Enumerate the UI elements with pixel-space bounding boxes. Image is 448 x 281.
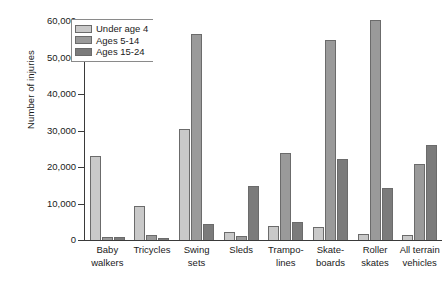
x-axis-label: Rollerskates: [353, 244, 398, 269]
x-axis-label: Tricycles: [130, 244, 175, 257]
x-axis-label: Swingsets: [174, 244, 219, 269]
bar-group: [174, 21, 219, 240]
bar: [90, 156, 101, 240]
bar-group: [397, 21, 442, 240]
bar: [102, 237, 113, 240]
bar: [191, 34, 202, 240]
x-axis-line: [84, 240, 442, 241]
x-axis-label: All terrainvehicles: [397, 244, 442, 269]
bar: [158, 238, 169, 240]
y-axis-tick: [78, 94, 85, 95]
x-axis-label: Skate-boards: [308, 244, 353, 269]
legend-swatch-icon: [75, 36, 92, 44]
bar: [358, 234, 369, 240]
bar: [382, 188, 393, 240]
y-axis-tick: [78, 240, 85, 241]
legend-swatch-icon: [75, 48, 92, 56]
x-axis-label: Trampo-lines: [264, 244, 309, 269]
bar: [414, 164, 425, 240]
legend-item-ages-5-14: Ages 5-14: [75, 35, 148, 47]
legend-item-ages-15-24: Ages 15-24: [75, 46, 148, 58]
y-axis-tick-label: 10,000: [47, 199, 76, 209]
legend-swatch-icon: [75, 25, 92, 33]
bar: [337, 159, 348, 240]
y-axis-tick-label: 40,000: [47, 89, 76, 99]
bar: [179, 129, 190, 240]
legend-item-under-age-4: Under age 4: [75, 23, 148, 35]
bar: [248, 186, 259, 240]
y-axis-tick-label: 30,000: [47, 126, 76, 136]
bar: [292, 222, 303, 240]
legend-label: Ages 5-14: [96, 35, 139, 47]
bar: [370, 20, 381, 240]
legend: Under age 4 Ages 5-14 Ages 15-24: [71, 19, 153, 62]
x-axis-label: Babywalkers: [85, 244, 130, 269]
y-axis-tick: [78, 167, 85, 168]
bar: [236, 236, 247, 240]
bar: [146, 235, 157, 240]
bar-group: [219, 21, 264, 240]
bar: [114, 237, 125, 240]
bar: [203, 224, 214, 240]
y-axis-tick: [78, 131, 85, 132]
legend-label: Ages 15-24: [96, 46, 145, 58]
bar: [280, 153, 291, 240]
bar: [313, 227, 324, 240]
bar-group: [308, 21, 353, 240]
injury-bar-chart: Number of injuries 010,00020,00030,00040…: [0, 0, 448, 281]
y-axis-tick-label: 20,000: [47, 162, 76, 172]
bar-group: [264, 21, 309, 240]
bar: [426, 145, 437, 240]
legend-label: Under age 4: [96, 23, 148, 35]
bar: [134, 206, 145, 240]
bar: [268, 226, 279, 240]
y-axis-tick: [78, 204, 85, 205]
bar: [325, 40, 336, 240]
bar: [402, 235, 413, 240]
y-axis-tick-label: 0: [71, 235, 76, 245]
y-axis-title: Number of injuries: [25, 0, 36, 180]
bar: [224, 232, 235, 240]
bar-group: [353, 21, 398, 240]
x-axis-label: Sleds: [219, 244, 264, 257]
